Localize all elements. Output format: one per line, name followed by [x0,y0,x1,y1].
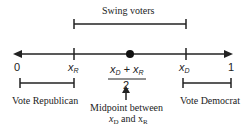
democrat-bracket [183,78,231,88]
republican-bracket [20,78,74,88]
midpoint-dot [126,50,134,58]
xd-label: xD [179,61,190,74]
swing-voters-bracket [74,19,186,29]
swing-voters-label: Swing voters [102,5,155,16]
axis-zero-label: 0 [14,61,20,73]
midpoint-numerator: xD + xR [110,63,144,76]
midpoint-caption-line2: xD and xR [109,113,148,126]
cap-xr-sub: R [143,118,148,126]
xd-subscript: D [185,67,190,74]
num-sub-r: R [139,69,144,76]
num-plus-x: + x [121,63,139,75]
xr-label: xR [68,61,79,74]
right-arrow-icon [224,50,233,58]
number-line [18,48,228,60]
left-arrow-icon [13,50,22,58]
axis-one-label: 1 [228,61,234,73]
vote-democrat-label: Vote Democrat [180,95,240,106]
swing-voters-diagram: Swing voters 0 xR xD 1 xD + xR 2 Vote Re… [0,0,248,127]
cap-and-xr: and x [119,113,143,124]
midpoint-denominator: 2 [123,79,129,91]
xr-subscript: R [74,67,79,74]
midpoint-caption-line1: Midpoint between [90,102,163,113]
vote-republican-label: Vote Republican [12,95,78,106]
